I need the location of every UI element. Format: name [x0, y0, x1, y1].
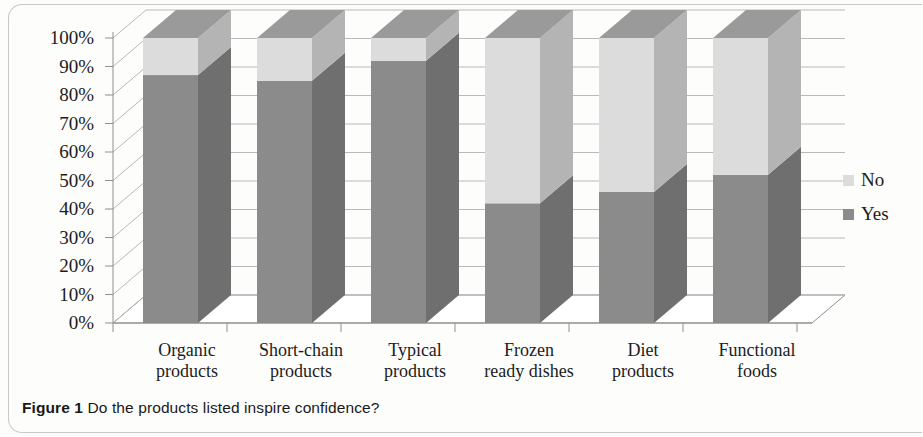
y-axis-tick-label: 10% — [28, 285, 94, 304]
legend-item-label: No — [861, 169, 884, 191]
gridline-connector — [113, 153, 146, 181]
x-axis-category-label-line: Frozen — [467, 340, 591, 361]
bar-segment-yes-front — [485, 203, 540, 323]
x-axis-category-label: Functionalfoods — [695, 340, 819, 382]
x-axis-category-label-line: Organic — [125, 340, 249, 361]
gridline-connector — [113, 267, 146, 295]
bar-segment-yes-front — [371, 61, 426, 323]
bar-segment-yes-front — [257, 81, 312, 323]
legend-item[interactable]: Yes — [843, 197, 917, 231]
bar-segment-no-side — [540, 10, 573, 203]
y-axis-tick-labels: 0%10%20%30%40%50%60%70%80%90%100% — [28, 0, 94, 392]
bar-segment-no-side — [768, 10, 801, 175]
x-axis-category-label-line: Diet — [581, 340, 705, 361]
chart-plot-area: 0%10%20%30%40%50%60%70%80%90%100% Organi… — [0, 0, 923, 392]
legend-item[interactable]: No — [843, 163, 917, 197]
figure-caption: Figure 1 Do the products listed inspire … — [22, 399, 380, 417]
bar-segment-yes-front — [143, 75, 198, 323]
bar-segment-yes-side — [312, 53, 345, 323]
x-axis-category-labels: OrganicproductsShort-chainproductsTypica… — [0, 336, 923, 392]
x-axis-category-label: Typicalproducts — [353, 340, 477, 382]
x-axis-category-label-line: products — [239, 361, 363, 382]
bar-segment-yes-front — [713, 175, 768, 323]
y-axis-tick-label: 40% — [28, 199, 94, 218]
bar-segment-no-side — [654, 10, 687, 192]
gridline-connector — [113, 10, 146, 38]
bar-segment-yes-side — [426, 33, 459, 323]
x-axis-category-label: Dietproducts — [581, 340, 705, 382]
figure-caption-text: Do the products listed inspire confidenc… — [88, 399, 380, 416]
y-axis-tick-label: 60% — [28, 142, 94, 161]
y-axis-tick-label: 20% — [28, 256, 94, 275]
y-axis-tick-label: 70% — [28, 114, 94, 133]
stacked-bar-chart-3d — [0, 0, 923, 392]
x-axis-category-label-line: Short-chain — [239, 340, 363, 361]
legend-item-label: Yes — [861, 203, 889, 225]
gridline-connector — [113, 67, 146, 95]
bar-segment-no-front — [485, 38, 540, 203]
legend-swatch-icon — [843, 175, 854, 186]
bar-column — [485, 10, 573, 323]
bar-segment-no-front — [143, 38, 198, 75]
x-axis-category-label-line: Typical — [353, 340, 477, 361]
bar-segment-no-front — [713, 38, 768, 175]
x-axis-category-label: Short-chainproducts — [239, 340, 363, 382]
gridline-connector — [113, 181, 146, 209]
y-axis-tick-label: 80% — [28, 85, 94, 104]
x-axis-category-label-line: ready dishes — [467, 361, 591, 382]
y-axis-tick-label: 50% — [28, 171, 94, 190]
bar-segment-yes-side — [654, 164, 687, 323]
chart-legend: NoYes — [843, 163, 917, 231]
bar-column — [713, 10, 801, 323]
y-axis-tick-label: 0% — [28, 313, 94, 332]
y-axis-tick-label: 100% — [28, 28, 94, 47]
bar-segment-no-front — [599, 38, 654, 192]
bar-column — [143, 10, 231, 323]
x-axis-category-label-line: products — [581, 361, 705, 382]
y-axis-tick-label: 30% — [28, 228, 94, 247]
bar-segment-no-front — [371, 38, 426, 61]
bar-column — [599, 10, 687, 323]
x-axis-category-label-line: Functional — [695, 340, 819, 361]
bar-segment-no-front — [257, 38, 312, 81]
gridline-connector — [113, 210, 146, 238]
x-axis-category-label: Organicproducts — [125, 340, 249, 382]
x-axis-category-label-line: foods — [695, 361, 819, 382]
x-axis-category-label-line: products — [353, 361, 477, 382]
bar-segment-yes-side — [768, 147, 801, 323]
bar-column — [257, 10, 345, 323]
x-axis-category-label: Frozenready dishes — [467, 340, 591, 382]
gridline-connector — [113, 238, 146, 266]
x-axis-category-label-line: products — [125, 361, 249, 382]
gridline-connector — [113, 96, 146, 124]
bar-column — [371, 10, 459, 323]
figure-caption-label: Figure 1 — [22, 399, 83, 416]
gridline-connector — [113, 124, 146, 152]
legend-swatch-icon — [843, 209, 854, 220]
bar-segment-yes-side — [198, 47, 231, 323]
figure-container: 0%10%20%30%40%50%60%70%80%90%100% Organi… — [0, 0, 923, 437]
y-axis-tick-label: 90% — [28, 57, 94, 76]
gridline-connector — [113, 39, 146, 67]
bar-segment-yes-front — [599, 192, 654, 323]
